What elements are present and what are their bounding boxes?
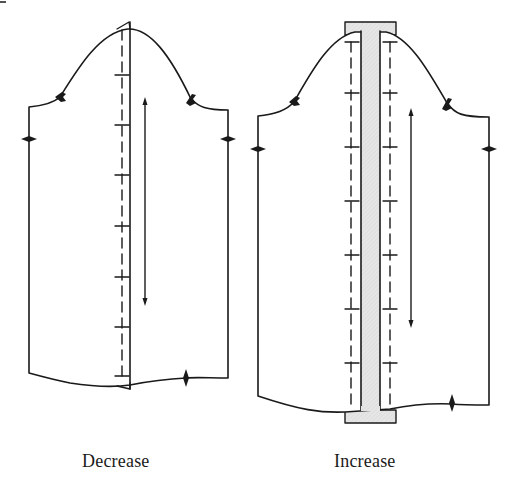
caption-increase: Increase [334, 451, 396, 472]
notch-underarm-right [220, 136, 236, 142]
sleeve-adjustment-diagram [0, 0, 514, 485]
notch-cap-left [55, 92, 66, 102]
fold-top-tab [117, 22, 130, 29]
notch-hem [183, 369, 189, 387]
notch-underarm-left [21, 136, 37, 142]
caption-decrease: Decrease [82, 451, 150, 472]
sleeve-outline-decrease [29, 29, 228, 387]
notch-cap-right [186, 94, 196, 106]
notches-decrease [21, 92, 236, 387]
decrease-panel [21, 22, 236, 389]
insert-strip [361, 31, 380, 410]
increase-panel [250, 22, 497, 423]
grainline-arrow-decrease [143, 97, 148, 306]
